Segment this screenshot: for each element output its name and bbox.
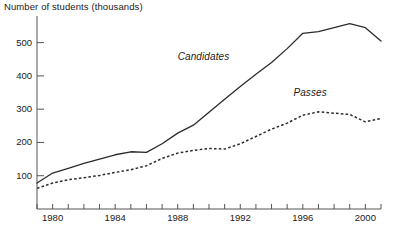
series-label-passes: Passes — [293, 87, 326, 98]
plot-area — [0, 0, 393, 245]
chart-figure: Number of students (thousands) 100200300… — [0, 0, 393, 245]
x-axis-tick-label: 1992 — [220, 212, 260, 223]
source-note — [26, 239, 386, 245]
y-axis-tick-label: 200 — [2, 136, 32, 147]
x-axis-tick-label: 1988 — [158, 212, 198, 223]
y-axis-tick-label: 400 — [2, 70, 32, 81]
y-axis-tick-label: 300 — [2, 103, 32, 114]
x-axis-tick-label: 1980 — [33, 212, 73, 223]
series-line-candidates — [37, 24, 381, 183]
series-label-candidates: Candidates — [178, 51, 230, 62]
series-line-passes — [37, 112, 381, 189]
x-axis-tick-label: 1984 — [95, 212, 135, 223]
y-axis-tick-label: 100 — [2, 170, 32, 181]
x-axis-tick-label: 2000 — [345, 212, 385, 223]
y-axis-tick-label: 500 — [2, 37, 32, 48]
x-axis-tick-label: 1996 — [283, 212, 323, 223]
